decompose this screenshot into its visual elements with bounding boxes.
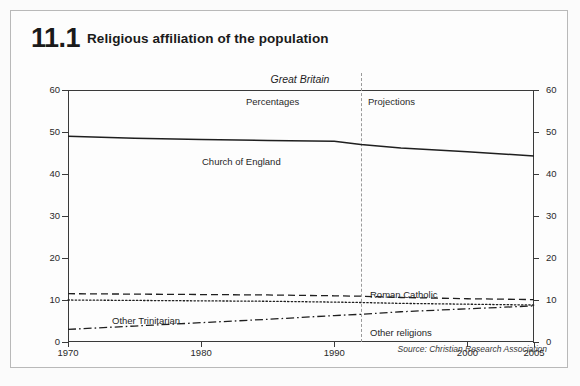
y-tick-label-left-40: 40 [49, 169, 60, 179]
y-tick-label-left-20: 20 [49, 253, 60, 263]
y-tick-left-40 [62, 174, 68, 175]
y-tick-right-60 [533, 90, 539, 91]
line-other-trinitarian [68, 300, 534, 305]
y-tick-label-left-50: 50 [49, 127, 60, 137]
figure-page: 11.1 Religious affiliation of the popula… [0, 0, 580, 386]
series-label-church-of-england: Church of England [202, 157, 281, 167]
y-tick-label-right-10: 10 [546, 295, 557, 305]
y-tick-label-right-50: 50 [546, 127, 557, 137]
series-lines [68, 90, 534, 342]
x-tick-label-1970: 1970 [57, 348, 78, 358]
series-label-other-religions: Other religions [370, 328, 432, 338]
source-note: Source: Christian Research Association [398, 344, 547, 354]
y-tick-left-50 [62, 132, 68, 133]
y-tick-right-40 [533, 174, 539, 175]
series-label-other-trinitarian: Other Trinitarian [112, 316, 180, 326]
x-tick-label-1990: 1990 [324, 348, 345, 358]
y-tick-right-50 [533, 132, 539, 133]
y-tick-label-right-20: 20 [546, 253, 557, 263]
y-tick-left-30 [62, 216, 68, 217]
y-tick-left-20 [62, 258, 68, 259]
chart-region: Great Britain Percentages Projections Ch… [21, 67, 579, 379]
y-tick-left-60 [62, 90, 68, 91]
figure-title: Religious affiliation of the population [87, 31, 329, 46]
line-roman-catholic [68, 294, 534, 300]
line-church-of-england [68, 136, 534, 156]
y-tick-label-left-60: 60 [49, 85, 60, 95]
y-tick-right-30 [533, 216, 539, 217]
x-tick-label-1980: 1980 [191, 348, 212, 358]
figure-frame: 11.1 Religious affiliation of the popula… [10, 10, 568, 368]
y-tick-right-20 [533, 258, 539, 259]
y-tick-label-right-40: 40 [546, 169, 557, 179]
y-tick-label-left-0: 0 [55, 337, 60, 347]
y-tick-label-right-60: 60 [546, 85, 557, 95]
geography-label: Great Britain [21, 73, 579, 85]
plot-area: Percentages Projections Church of Englan… [68, 90, 534, 342]
y-tick-label-right-30: 30 [546, 211, 557, 221]
y-tick-label-left-10: 10 [49, 295, 60, 305]
y-tick-label-left-30: 30 [49, 211, 60, 221]
series-label-roman-catholic: Roman Catholic [370, 290, 438, 300]
figure-number: 11.1 [31, 25, 80, 52]
y-tick-right-10 [533, 300, 539, 301]
y-tick-left-10 [62, 300, 68, 301]
